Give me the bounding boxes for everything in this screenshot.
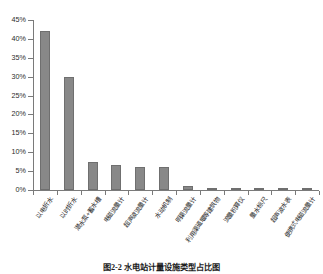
y-axis-tick-label: 40% [0, 35, 26, 42]
y-axis-tick-label: 35% [0, 54, 26, 61]
bar [254, 188, 264, 190]
bar [88, 162, 98, 190]
x-axis-tick [200, 191, 201, 195]
x-axis-category-label: 超声波水表 [270, 196, 292, 224]
figure-caption: 图2-2 水电站计量设施类型占比图 [0, 260, 323, 272]
x-axis-category-label: 流量积算仪 [222, 196, 244, 224]
bar [159, 167, 169, 190]
y-axis-tick-label: 10% [0, 148, 26, 155]
y-axis-tick-label: 0% [0, 186, 26, 193]
x-axis-category-label: 潜水泵+蓄水槽 [74, 196, 102, 232]
x-axis-tick [295, 191, 296, 195]
x-axis-tick [176, 191, 177, 195]
x-axis-category-label: 超声波流量计 [124, 196, 150, 229]
y-axis-tick-label: 30% [0, 73, 26, 80]
y-axis-tick-label: 25% [0, 92, 26, 99]
x-axis-category-label: 以电折水 [35, 196, 54, 219]
x-axis-tick [57, 191, 58, 195]
x-axis-tick [224, 191, 225, 195]
x-axis-tick [105, 191, 106, 195]
figure-container: 0%5%10%15%20%25%30%35%40%45% 以电折水以时折水潜水泵… [0, 0, 323, 274]
y-axis-tick-label: 15% [0, 129, 26, 136]
x-axis-tick [319, 191, 320, 195]
y-axis-tick-label: 45% [0, 16, 26, 23]
x-axis-category-label: 明渠流量计 [175, 196, 197, 224]
x-axis-tick [248, 191, 249, 195]
bar [231, 188, 241, 190]
x-axis-tick [152, 191, 153, 195]
y-axis-tick-label: 20% [0, 110, 26, 117]
bar [302, 188, 312, 190]
x-axis-category-label: 量水标尺 [250, 196, 269, 219]
x-axis-category-label: 水动机制 [154, 196, 173, 219]
x-axis-category-label: 以时折水 [59, 196, 78, 219]
bar [135, 167, 145, 190]
x-axis-tick [271, 191, 272, 195]
bar [207, 188, 217, 190]
bar [64, 77, 74, 190]
bar [40, 31, 50, 190]
x-axis-category-label: 电磁流量计 [103, 196, 125, 224]
y-axis-tick-label: 5% [0, 167, 26, 174]
x-axis-tick [33, 191, 34, 195]
bar-series [33, 20, 319, 190]
bar [183, 186, 193, 190]
x-axis-tick [128, 191, 129, 195]
bar [278, 188, 288, 190]
bar [111, 165, 121, 190]
x-axis-tick [81, 191, 82, 195]
